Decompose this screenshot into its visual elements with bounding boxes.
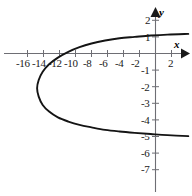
x-tick-label--10: -10 — [64, 58, 78, 69]
parabola-curve — [37, 34, 188, 136]
y-tick-label--1: -1 — [141, 65, 150, 76]
x-tick-label-2: 2 — [168, 58, 173, 69]
y-axis-label: y — [159, 7, 164, 18]
x-axis-label: x — [174, 39, 180, 50]
y-tick-label--2: -2 — [141, 82, 150, 93]
graph-figure: -16 -14 -12 -10 -8 -6 -4 -2 2 2 1 -1 -2 … — [0, 0, 192, 196]
x-tick-label--6: -6 — [99, 58, 108, 69]
y-tick-label-1: 1 — [145, 32, 150, 43]
x-tick-label--4: -4 — [115, 58, 124, 69]
x-tick-label--2: -2 — [131, 58, 140, 69]
x-tick-label--16: -16 — [16, 58, 30, 69]
x-axis-arrow-icon — [181, 49, 190, 59]
x-tick-label--14: -14 — [32, 58, 46, 69]
y-tick-label--6: -6 — [141, 148, 150, 159]
y-tick-label--3: -3 — [141, 98, 150, 109]
y-tick-label-2: 2 — [145, 15, 150, 26]
x-tick-label--8: -8 — [83, 58, 92, 69]
coordinate-plane — [0, 0, 192, 196]
x-tick-label--12: -12 — [48, 58, 62, 69]
y-tick-label--4: -4 — [141, 115, 150, 126]
y-tick-label--5: -5 — [141, 131, 150, 142]
y-tick-label--7: -7 — [141, 164, 150, 175]
